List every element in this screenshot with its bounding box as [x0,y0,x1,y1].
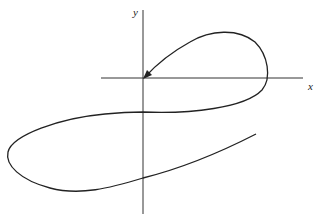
curve-diagram [0,0,317,215]
parametric-curve [8,32,268,191]
x-axis-label: x [308,80,313,92]
y-axis-label: y [133,6,138,18]
